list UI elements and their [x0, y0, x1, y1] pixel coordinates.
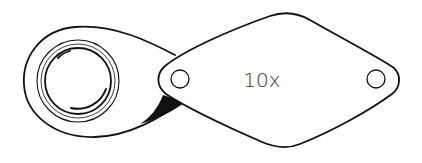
lens: [37, 40, 119, 122]
rivet-hole-right: [367, 70, 385, 88]
loupe-drawing: 10x: [0, 0, 422, 163]
loupe-illustration: 10x: [0, 0, 422, 163]
magnification-label: 10x: [243, 68, 280, 92]
lens-cover: 10x: [158, 13, 399, 147]
rivet-hole-left: [171, 70, 189, 88]
lens-glass: [45, 48, 111, 114]
